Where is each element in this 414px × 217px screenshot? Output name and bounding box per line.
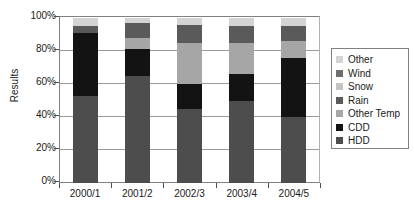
legend-swatch-icon: [336, 124, 343, 131]
bar-segment-rain[interactable]: [177, 25, 202, 43]
bar-segment-hdd[interactable]: [229, 101, 254, 184]
bar-stack: [281, 16, 306, 183]
legend-item-rain[interactable]: Rain: [336, 94, 369, 107]
legend-label: Other: [348, 54, 373, 65]
y-tick-label: 40%: [10, 109, 56, 120]
x-tick-mark: [320, 183, 321, 188]
legend-item-other-temp[interactable]: Other Temp: [336, 107, 400, 120]
legend-label: Snow: [348, 81, 373, 92]
x-tick-label: 2000/1: [59, 188, 111, 199]
y-tick-label: 60%: [10, 76, 56, 87]
y-tick-label: 100%: [10, 10, 56, 21]
bar-segment-other[interactable]: [281, 18, 306, 26]
legend-label: HDD: [348, 135, 370, 146]
bar-segment-cdd[interactable]: [229, 74, 254, 100]
legend-item-hdd[interactable]: HDD: [336, 134, 370, 147]
bar-segment-cdd[interactable]: [177, 84, 202, 109]
bar-segment-cdd[interactable]: [73, 33, 98, 96]
bar-group[interactable]: [177, 16, 202, 183]
bars-layer: [59, 16, 320, 183]
bar-segment-rain[interactable]: [73, 26, 98, 33]
bar-segment-cdd[interactable]: [125, 49, 150, 75]
bar-segment-other[interactable]: [177, 18, 202, 25]
legend-swatch-icon: [336, 137, 343, 144]
bar-segment-other-temp[interactable]: [229, 43, 254, 74]
stacked-bar-chart: Results 100%80%60%40%20%0% 2000/12001/22…: [0, 0, 414, 217]
x-tick-label: 2004/5: [268, 188, 320, 199]
legend: OtherWindSnowRainOther TempCDDHDD: [331, 48, 409, 149]
legend-swatch-icon: [336, 83, 343, 90]
y-tick-label: 0%: [10, 175, 56, 186]
y-tick-label: 80%: [10, 43, 56, 54]
x-tick-label: 2001/2: [111, 188, 163, 199]
bar-segment-other-temp[interactable]: [125, 38, 150, 50]
bar-segment-other[interactable]: [125, 18, 150, 23]
bar-segment-hdd[interactable]: [281, 117, 306, 183]
bar-segment-rain[interactable]: [125, 23, 150, 38]
bar-group[interactable]: [73, 16, 98, 183]
legend-item-cdd[interactable]: CDD: [336, 121, 370, 134]
bar-segment-other-temp[interactable]: [281, 41, 306, 58]
bar-group[interactable]: [229, 16, 254, 183]
legend-label: Rain: [348, 95, 369, 106]
y-tick-label: 20%: [10, 142, 56, 153]
bar-segment-rain[interactable]: [229, 26, 254, 43]
legend-label: Wind: [348, 68, 371, 79]
x-tick-label: 2002/3: [163, 188, 215, 199]
legend-label: CDD: [348, 122, 370, 133]
legend-label: Other Temp: [348, 108, 400, 119]
legend-swatch-icon: [336, 110, 343, 117]
legend-item-wind[interactable]: Wind: [336, 67, 371, 80]
bar-stack: [229, 16, 254, 183]
bar-segment-rain[interactable]: [281, 26, 306, 41]
legend-item-other[interactable]: Other: [336, 53, 373, 66]
bar-stack: [177, 16, 202, 183]
x-tick-label: 2003/4: [216, 188, 268, 199]
bar-segment-other[interactable]: [73, 18, 98, 26]
x-axis: 2000/12001/22002/32003/42004/5: [59, 188, 320, 204]
bar-stack: [125, 16, 150, 183]
bar-group[interactable]: [125, 16, 150, 183]
legend-swatch-icon: [336, 56, 343, 63]
bar-group[interactable]: [281, 16, 306, 183]
bar-segment-other-temp[interactable]: [177, 43, 202, 84]
bar-stack: [73, 16, 98, 183]
bar-segment-cdd[interactable]: [281, 58, 306, 117]
bar-segment-other[interactable]: [229, 18, 254, 26]
legend-item-snow[interactable]: Snow: [336, 80, 373, 93]
bar-segment-hdd[interactable]: [177, 109, 202, 183]
bar-segment-hdd[interactable]: [73, 96, 98, 183]
legend-swatch-icon: [336, 97, 343, 104]
bar-segment-hdd[interactable]: [125, 76, 150, 183]
legend-swatch-icon: [336, 70, 343, 77]
